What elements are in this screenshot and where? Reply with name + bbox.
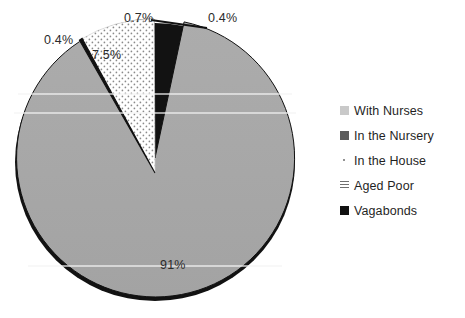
legend-label-in-the-nursery: In the Nursery — [354, 129, 434, 143]
data-label-vagabonds: 0.4% — [44, 33, 73, 47]
data-label-aged-poor: 0.7% — [124, 11, 153, 25]
legend-item-in-the-house[interactable]: In the House — [340, 148, 434, 173]
data-label-in-the-nursery: 0.4% — [208, 11, 237, 25]
dotted-square-icon — [340, 156, 349, 165]
data-label-with-nurses: 91% — [160, 258, 186, 272]
legend-item-in-the-nursery[interactable]: In the Nursery — [340, 123, 434, 148]
square-dark-gray-icon — [340, 131, 349, 140]
pie-chart: 0.4% 7.5% 0.7% 0.4% 91% With Nurses In t… — [0, 0, 465, 318]
chart-legend: With Nurses In the Nursery In the House … — [340, 98, 434, 223]
square-light-gray-icon — [340, 106, 349, 115]
legend-item-with-nurses[interactable]: With Nurses — [340, 98, 434, 123]
legend-label-vagabonds: Vagabonds — [354, 204, 417, 218]
striped-square-icon — [340, 181, 349, 188]
legend-item-aged-poor[interactable]: Aged Poor — [340, 173, 434, 198]
legend-label-aged-poor: Aged Poor — [354, 179, 414, 193]
legend-label-in-the-house: In the House — [354, 154, 426, 168]
legend-item-vagabonds[interactable]: Vagabonds — [340, 198, 434, 223]
legend-label-with-nurses: With Nurses — [354, 104, 423, 118]
square-black-icon — [340, 206, 349, 215]
data-label-in-the-house: 7.5% — [92, 48, 121, 62]
